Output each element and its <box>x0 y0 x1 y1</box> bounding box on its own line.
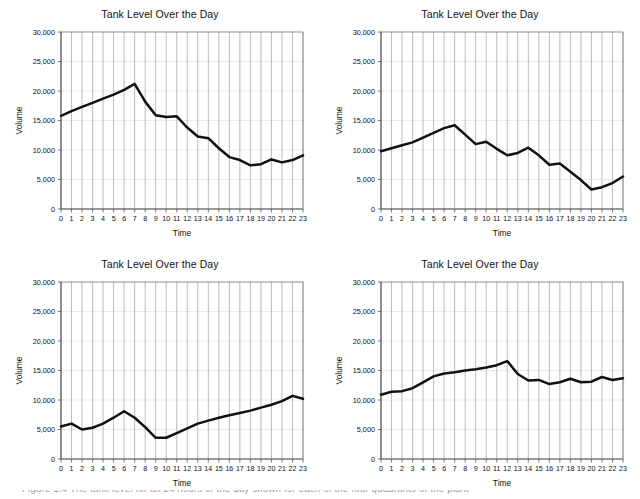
x-tick-label: 15 <box>535 465 543 473</box>
y-tick-label: 20,000 <box>353 337 375 346</box>
x-tick-label: 2 <box>400 215 404 223</box>
x-tick-label: 11 <box>173 465 180 473</box>
x-tick-label: 14 <box>524 215 532 223</box>
x-tick-label: 13 <box>514 215 522 223</box>
x-tick-label: 2 <box>80 215 84 223</box>
x-tick-label: 22 <box>609 215 617 223</box>
x-tick-label: 21 <box>598 465 606 473</box>
x-tick-label: 4 <box>421 215 425 223</box>
chart-panel-bottom-right: Tank Level Over the Day 05,00010,00015,0… <box>320 250 640 499</box>
y-tick-label: 25,000 <box>33 307 55 316</box>
x-tick-label: 15 <box>535 215 543 223</box>
x-tick-label: 10 <box>482 465 490 473</box>
x-tick-label: 8 <box>143 215 147 223</box>
y-axis-title: Volume <box>14 356 24 384</box>
x-tick-label: 14 <box>204 215 212 223</box>
y-tick-label: 25,000 <box>353 57 375 66</box>
y-tick-label: 30,000 <box>353 278 375 287</box>
x-tick-label: 12 <box>183 465 191 473</box>
x-tick-label: 20 <box>587 465 595 473</box>
x-tick-label: 16 <box>545 215 553 223</box>
x-tick-label: 10 <box>162 215 170 223</box>
x-tick-label: 3 <box>91 215 95 223</box>
x-tick-label: 18 <box>566 465 574 473</box>
x-tick-label: 21 <box>598 215 606 223</box>
x-tick-label: 7 <box>133 465 137 473</box>
x-tick-label: 18 <box>566 215 574 223</box>
y-tick-label: 30,000 <box>353 28 375 37</box>
x-tick-label: 9 <box>154 465 158 473</box>
chart-panel-top-right: Tank Level Over the Day 05,00010,00015,0… <box>320 0 640 249</box>
x-tick-label: 5 <box>432 465 436 473</box>
y-tick-label: 20,000 <box>33 87 55 96</box>
x-tick-label: 21 <box>278 215 286 223</box>
x-tick-label: 13 <box>514 465 522 473</box>
x-tick-label: 1 <box>390 215 394 223</box>
x-axis-title: Time <box>173 228 192 238</box>
x-tick-label: 19 <box>257 465 265 473</box>
x-tick-label: 2 <box>80 465 84 473</box>
x-tick-label: 19 <box>257 215 265 223</box>
x-tick-label: 13 <box>194 465 202 473</box>
chart-canvas-bottom-left: 05,00010,00015,00020,00025,00030,0000123… <box>0 250 320 499</box>
x-tick-label: 17 <box>556 215 564 223</box>
x-tick-label: 8 <box>463 215 467 223</box>
chart-panel-top-left: Tank Level Over the Day 05,00010,00015,0… <box>0 0 320 249</box>
x-tick-label: 3 <box>91 465 95 473</box>
x-tick-label: 1 <box>70 465 74 473</box>
y-tick-label: 10,000 <box>353 396 375 405</box>
x-tick-label: 9 <box>154 215 158 223</box>
x-tick-label: 7 <box>133 215 137 223</box>
x-tick-label: 2 <box>400 465 404 473</box>
x-tick-label: 23 <box>619 215 627 223</box>
x-tick-label: 6 <box>122 465 126 473</box>
x-tick-label: 18 <box>246 465 254 473</box>
chart-grid: Tank Level Over the Day 05,00010,00015,0… <box>0 0 640 499</box>
x-tick-label: 17 <box>556 465 564 473</box>
y-tick-label: 30,000 <box>33 28 55 37</box>
y-tick-label: 20,000 <box>33 337 55 346</box>
x-tick-label: 10 <box>482 215 490 223</box>
y-tick-label: 5,000 <box>37 425 55 434</box>
chart-panel-bottom-left: Tank Level Over the Day 05,00010,00015,0… <box>0 250 320 499</box>
x-tick-label: 3 <box>411 215 415 223</box>
x-tick-label: 19 <box>577 465 585 473</box>
x-tick-label: 4 <box>421 465 425 473</box>
x-tick-label: 0 <box>379 465 383 473</box>
x-tick-label: 23 <box>619 465 627 473</box>
x-axis-title: Time <box>493 228 512 238</box>
x-tick-label: 23 <box>299 465 307 473</box>
y-tick-label: 15,000 <box>33 116 55 125</box>
x-tick-label: 1 <box>390 465 394 473</box>
x-tick-label: 0 <box>59 465 63 473</box>
y-tick-label: 0 <box>51 455 55 464</box>
x-tick-label: 23 <box>299 215 307 223</box>
x-tick-label: 5 <box>432 215 436 223</box>
x-tick-label: 6 <box>122 215 126 223</box>
y-tick-label: 10,000 <box>33 396 55 405</box>
y-tick-label: 10,000 <box>33 146 55 155</box>
x-tick-label: 14 <box>524 465 532 473</box>
y-tick-label: 5,000 <box>37 175 55 184</box>
y-tick-label: 10,000 <box>353 146 375 155</box>
y-tick-label: 15,000 <box>353 366 375 375</box>
y-tick-label: 30,000 <box>33 278 55 287</box>
x-tick-label: 12 <box>183 215 191 223</box>
y-tick-label: 0 <box>51 205 55 214</box>
chart-canvas-top-right: 05,00010,00015,00020,00025,00030,0000123… <box>320 0 640 249</box>
data-series-line <box>381 125 623 189</box>
x-tick-label: 22 <box>289 465 297 473</box>
y-tick-label: 15,000 <box>33 366 55 375</box>
x-tick-label: 19 <box>577 215 585 223</box>
x-tick-label: 15 <box>215 465 223 473</box>
y-axis-title: Volume <box>14 106 24 134</box>
x-tick-label: 15 <box>215 215 223 223</box>
x-tick-label: 0 <box>59 215 63 223</box>
x-tick-label: 18 <box>246 215 254 223</box>
y-tick-label: 20,000 <box>353 87 375 96</box>
y-tick-label: 5,000 <box>357 425 375 434</box>
y-tick-label: 0 <box>371 205 375 214</box>
x-tick-label: 5 <box>112 215 116 223</box>
x-tick-label: 5 <box>112 465 116 473</box>
x-tick-label: 16 <box>225 465 233 473</box>
